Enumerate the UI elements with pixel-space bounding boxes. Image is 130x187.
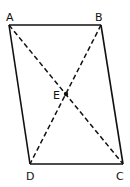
side-bc [101,25,123,164]
intersection-point-e [64,92,68,96]
parallelogram-diagram: A B C D E [0,0,130,187]
vertex-label-d: D [26,170,34,183]
vertex-label-b: B [95,11,103,24]
vertex-label-c: C [116,170,124,183]
vertex-label-a: A [6,11,14,24]
point-label-e: E [53,89,60,102]
